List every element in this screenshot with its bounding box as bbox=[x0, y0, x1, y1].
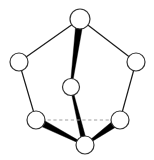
graph-diagram-canvas bbox=[0, 0, 154, 160]
node-n-bottom-left[interactable] bbox=[27, 111, 45, 129]
node-n-center[interactable] bbox=[63, 79, 80, 96]
node-n-bottom[interactable] bbox=[76, 136, 94, 154]
edge-e-top-left bbox=[19, 19, 80, 62]
edge-e-center-bottom bbox=[71, 91, 86, 140]
node-n-bottom-right[interactable] bbox=[111, 111, 129, 129]
graph-figure bbox=[0, 0, 154, 160]
node-n-right[interactable] bbox=[127, 53, 145, 71]
node-n-top[interactable] bbox=[70, 9, 90, 29]
edge-e-top-center bbox=[71, 24, 83, 83]
node-n-left[interactable] bbox=[10, 53, 28, 71]
